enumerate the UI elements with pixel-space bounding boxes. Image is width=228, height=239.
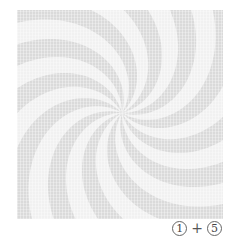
caption: 1 + 5 (172, 219, 222, 237)
swirl-pattern (17, 10, 223, 219)
circled-number-1: 1 (172, 221, 187, 236)
circled-number-5: 5 (207, 221, 222, 236)
plus-sign: + (191, 220, 203, 236)
